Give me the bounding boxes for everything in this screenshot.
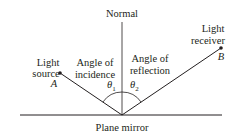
point-a-label: A [50,78,58,89]
angle-of-incidence-label-line1: Angle of [76,57,114,68]
theta1-label: θ1 [107,79,116,93]
light-source-label-line1: Light [37,57,60,68]
point-b-dot [219,46,223,50]
angle-of-reflection-label-line2: reflection [130,65,171,76]
reflection-diagram: Normal Plane mirror Light source A Light… [0,0,236,136]
angle-arc-incidence [103,92,122,102]
point-b-label: B [218,51,225,62]
angle-arc-reflection [122,92,141,102]
angle-of-reflection-label-line1: Angle of [131,53,169,64]
light-receiver-label-line1: Light [202,23,225,34]
plane-mirror-label: Plane mirror [96,122,149,133]
normal-label: Normal [106,8,138,19]
theta2-label: θ2 [130,79,139,93]
light-receiver-label-line2: receiver [191,35,225,46]
